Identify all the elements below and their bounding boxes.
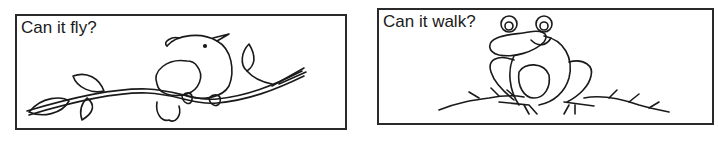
frog-icon (379, 10, 714, 125)
panel-walk: Can it walk? (377, 8, 714, 125)
bird-icon (17, 16, 347, 130)
panel-fly: Can it fly? (15, 14, 347, 130)
